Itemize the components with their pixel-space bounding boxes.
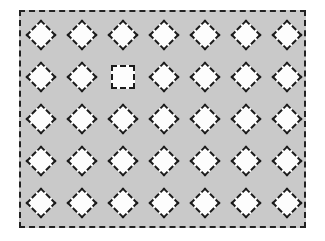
square-shape [111, 65, 135, 89]
